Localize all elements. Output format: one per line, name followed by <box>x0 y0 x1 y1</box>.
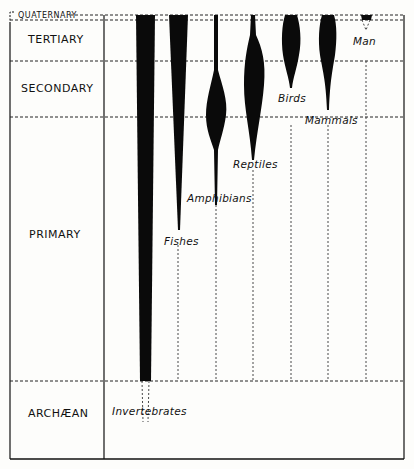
group-label-reptiles: Reptiles <box>233 158 278 170</box>
group-label-mammals: Mammals <box>305 114 358 126</box>
group-label-fishes: Fishes <box>164 235 199 247</box>
branch-mammals <box>319 15 336 110</box>
era-labels: QUATERNARY TERTIARY SECONDARY PRIMARY AR… <box>18 11 93 420</box>
branch-man <box>361 15 372 20</box>
group-label-amphibians: Amphibians <box>186 192 252 204</box>
evolution-diagram: QUATERNARY TERTIARY SECONDARY PRIMARY AR… <box>0 0 414 469</box>
era-label-quaternary: QUATERNARY <box>18 11 77 20</box>
branch-birds <box>282 15 301 88</box>
branch-reptiles <box>244 15 265 160</box>
branch-fishes <box>169 15 188 230</box>
group-label-birds: Birds <box>278 92 306 104</box>
era-label-primary: PRIMARY <box>29 228 81 241</box>
branches <box>136 15 372 381</box>
era-label-tertiary: TERTIARY <box>27 33 84 46</box>
era-label-secondary: SECONDARY <box>21 82 93 95</box>
era-label-archaean: ARCHÆAN <box>28 407 89 420</box>
branch-invertebrates <box>136 15 155 381</box>
group-label-invertebrates: Invertebrates <box>112 405 187 417</box>
branch-amphibians <box>206 15 226 205</box>
group-label-man: Man <box>353 35 376 47</box>
